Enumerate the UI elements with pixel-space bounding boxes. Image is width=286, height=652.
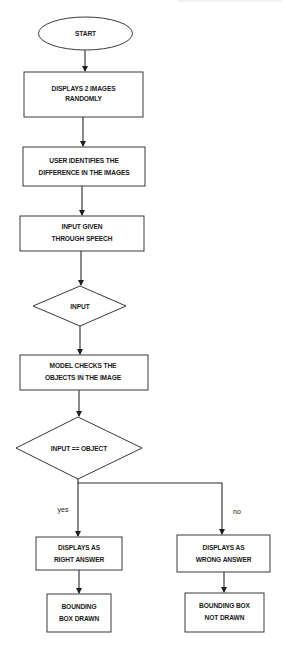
- node-label-line-1: BOUNDING BOX: [199, 602, 251, 609]
- node-display-images: DISPLAYS 2 IMAGES RANDOMLY: [24, 72, 143, 117]
- node-label-line-2: RIGHT ANSWER: [54, 556, 105, 563]
- node-label-line-1: BOUNDING: [61, 603, 96, 610]
- node-label-line-2: RANDOMLY: [65, 95, 102, 102]
- node-wrong-answer: DISPLAYS AS WRONG ANSWER: [177, 535, 270, 572]
- node-label: INPUT == OBJECT: [51, 445, 107, 452]
- node-box-not-drawn: BOUNDING BOX NOT DRAWN: [185, 593, 264, 632]
- edge-label-no: no: [233, 508, 241, 515]
- node-label-line-1: DISPLAYS 2 IMAGES: [51, 85, 116, 92]
- node-label-line-1: DISPLAYS AS: [58, 544, 101, 551]
- edges: [78, 50, 224, 593]
- edge-decision-no: [78, 483, 222, 534]
- process-shape: [177, 535, 270, 572]
- node-label-line-2: NOT DRAWN: [205, 614, 245, 621]
- node-model-checks: MODEL CHECKS THE OBJECTS IN THE IMAGE: [20, 355, 148, 390]
- node-label-line-1: INPUT GIVEN: [61, 223, 102, 230]
- node-user-identifies: USER IDENTIFIES THE DIFFERENCE IN THE IM…: [23, 147, 145, 186]
- node-input: INPUT: [33, 286, 126, 326]
- edge-label-yes: yes: [58, 506, 69, 514]
- node-right-answer: DISPLAYS AS RIGHT ANSWER: [36, 537, 122, 570]
- node-label-line-2: THROUGH SPEECH: [52, 235, 113, 242]
- node-speech-input: INPUT GIVEN THROUGH SPEECH: [20, 216, 144, 251]
- node-decision: INPUT == OBJECT: [16, 417, 142, 479]
- node-label-line-1: MODEL CHECKS THE: [50, 362, 117, 369]
- node-label-line-1: USER IDENTIFIES THE: [49, 157, 119, 164]
- node-label: START: [75, 30, 96, 37]
- node-label-line-2: OBJECTS IN THE IMAGE: [45, 374, 122, 381]
- process-shape: [20, 355, 148, 390]
- flowchart-diagram: yes no START DISPLAYS 2 IMAGES RANDOMLY …: [0, 0, 286, 652]
- node-label-line-2: WRONG ANSWER: [196, 556, 252, 563]
- process-shape: [47, 594, 111, 632]
- node-label: INPUT: [70, 303, 89, 310]
- node-label-line-2: DIFFERENCE IN THE IMAGES: [38, 169, 130, 176]
- node-label-line-1: DISPLAYS AS: [202, 544, 245, 551]
- node-start: START: [39, 17, 133, 50]
- process-shape: [185, 593, 264, 632]
- node-box-drawn: BOUNDING BOX DRAWN: [47, 594, 111, 632]
- process-shape: [23, 147, 145, 186]
- process-shape: [20, 216, 144, 251]
- node-label-line-2: BOX DRAWN: [59, 615, 99, 622]
- process-shape: [36, 537, 122, 570]
